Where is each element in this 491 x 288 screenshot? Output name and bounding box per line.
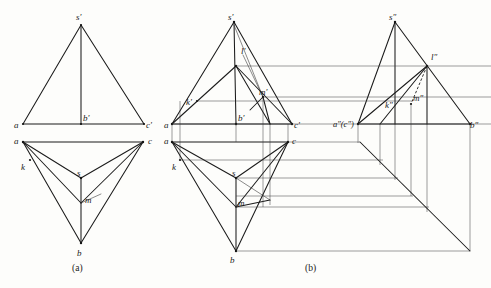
panel-a: s' a b' c' a k c s m b (a) xyxy=(14,12,153,274)
label-s-prime-a: s' xyxy=(76,12,83,22)
vertex-a-top-dot xyxy=(22,141,24,143)
label-m-double-prime-b: m″ xyxy=(413,93,423,103)
b-front-edge-to-a xyxy=(172,66,236,124)
label-k-double-prime-b: k″ xyxy=(385,100,393,110)
point-k-top-dot xyxy=(29,159,31,161)
label-m-top-b: m xyxy=(238,198,245,208)
vertex-c-prime-dot xyxy=(143,123,145,125)
label-b-prime-b: b' xyxy=(238,113,246,123)
miter-line-45deg xyxy=(360,142,470,251)
label-l-double-prime-b: l″ xyxy=(431,52,438,62)
label-a-top-a: a xyxy=(14,136,19,146)
label-c-top-b: c xyxy=(292,136,296,146)
panel-a-front-view xyxy=(22,24,145,125)
label-a-front-a: a xyxy=(14,120,19,130)
label-c-prime-a: c' xyxy=(146,120,153,130)
label-ac-double-prime-b: a″(c″) xyxy=(333,119,354,129)
label-b-prime-a: b' xyxy=(83,113,91,123)
label-s-top-a: s xyxy=(77,168,81,178)
panel-b-top-view xyxy=(171,141,289,252)
vertex-b-top-dot xyxy=(80,242,82,244)
label-c-prime-b: c' xyxy=(294,120,301,130)
label-s-top-b: s xyxy=(232,168,236,178)
label-b-top-a: b xyxy=(77,248,82,258)
label-a-top-b: a xyxy=(164,136,169,146)
top-edge-cb xyxy=(81,142,143,243)
label-k-top-b: k xyxy=(172,162,177,172)
caption-a: (a) xyxy=(72,263,83,274)
vertex-s-prime-dot xyxy=(80,24,82,26)
vertex-c-top-dot xyxy=(142,141,144,143)
panel-b-front-view xyxy=(171,21,293,125)
b-profile-triangle-outline xyxy=(358,22,470,124)
figure-page: s' a b' c' a k c s m b (a) xyxy=(0,0,491,288)
b-front-axis-sb xyxy=(234,22,236,124)
label-m-top-a: m xyxy=(85,195,92,205)
panel-a-top-view xyxy=(22,141,144,244)
vertex-a-dot xyxy=(22,123,24,125)
label-b-top-b: b xyxy=(230,255,235,265)
label-a-front-b: a xyxy=(164,120,169,130)
label-s-prime-b: s' xyxy=(228,12,235,22)
panel-b: s' l' k' m' a b' c' s″ l″ k″ m″ a″(c″) b… xyxy=(164,12,491,274)
label-m-prime-b: m' xyxy=(259,87,268,97)
caption-b: (b) xyxy=(305,263,316,274)
label-c-top-a: c xyxy=(148,136,152,146)
front-triangle-outline xyxy=(23,25,144,124)
vertex-b-prime-dot xyxy=(80,123,82,125)
b-front-triangle-outline xyxy=(172,22,292,124)
b-top-edge-ab xyxy=(172,142,236,251)
b-top-construction-s-m xyxy=(236,178,270,200)
label-k-top-a: k xyxy=(21,162,26,172)
label-b-double-prime-b: b″ xyxy=(470,120,479,130)
top-edge-ab xyxy=(23,142,81,243)
label-s-double-prime-b: s″ xyxy=(389,12,397,22)
technical-drawing-canvas: s' a b' c' a k c s m b (a) xyxy=(0,0,491,288)
panel-b-profile-view xyxy=(357,21,471,125)
